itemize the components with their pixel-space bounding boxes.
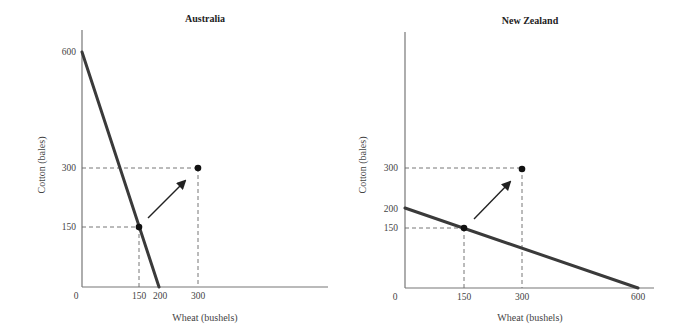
new-zealand-xtick-300: 300 bbox=[515, 292, 530, 302]
australia-xtick-300: 300 bbox=[191, 291, 206, 301]
australia-x-axis-label: Wheat (bushels) bbox=[172, 312, 237, 324]
new-zealand-xtick-600: 600 bbox=[631, 292, 646, 302]
new-zealand-ytick-300: 300 bbox=[384, 163, 399, 173]
australia-xtick-150: 150 bbox=[132, 291, 147, 301]
new-zealand-ytick-150: 150 bbox=[384, 223, 399, 233]
new-zealand-trade-arrow-icon bbox=[474, 182, 510, 219]
australia-chart: Australia 600 300 150 0 150 200 300 Whea… bbox=[36, 13, 328, 324]
new-zealand-ppf-line bbox=[405, 208, 638, 288]
new-zealand-xtick-150: 150 bbox=[457, 292, 472, 302]
australia-ytick-150: 150 bbox=[62, 222, 77, 232]
new-zealand-title: New Zealand bbox=[502, 15, 559, 26]
australia-origin-label: 0 bbox=[74, 291, 79, 301]
australia-ytick-300: 300 bbox=[62, 163, 77, 173]
new-zealand-y-axis-label: Cotton (bales) bbox=[357, 137, 369, 194]
new-zealand-consumption-point bbox=[519, 166, 526, 173]
australia-xtick-200: 200 bbox=[153, 291, 168, 301]
australia-title: Australia bbox=[185, 13, 225, 24]
new-zealand-ytick-200: 200 bbox=[384, 204, 399, 214]
australia-production-point bbox=[136, 224, 143, 231]
new-zealand-production-point bbox=[461, 225, 468, 232]
australia-trade-arrow-icon bbox=[148, 181, 185, 218]
chart-canvas: Australia 600 300 150 0 150 200 300 Whea… bbox=[0, 0, 688, 333]
australia-ppf-line bbox=[82, 52, 159, 287]
australia-y-axis-label: Cotton (bales) bbox=[36, 137, 48, 194]
new-zealand-x-axis-label: Wheat (bushels) bbox=[497, 312, 562, 324]
australia-ytick-600: 600 bbox=[62, 47, 77, 57]
new-zealand-chart: New Zealand 300 200 150 0 150 300 600 Wh… bbox=[357, 15, 654, 324]
australia-consumption-point bbox=[195, 165, 202, 172]
new-zealand-origin-label: 0 bbox=[393, 292, 398, 302]
